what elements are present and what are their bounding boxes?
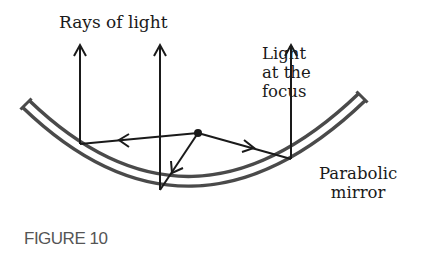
focus-point <box>194 129 202 137</box>
parabolic-mirror-figure: Rays of light Light at the focus Parabol… <box>0 0 432 257</box>
focus-label-line-3: focus <box>262 82 311 101</box>
light-at-focus-label: Light at the focus <box>262 44 311 101</box>
focus-label-line-2: at the <box>262 63 311 82</box>
figure-caption: FIGURE 10 <box>24 229 107 249</box>
mirror-label-line-1: Parabolic <box>319 164 397 183</box>
ray-to-right <box>198 133 291 159</box>
ray-to-left <box>80 133 198 144</box>
diagram-canvas <box>0 0 432 257</box>
direction-arrowheads <box>119 134 254 173</box>
parabolic-mirror-label: Parabolic mirror <box>319 164 397 202</box>
parabolic-mirror <box>22 93 367 182</box>
rays-of-light-label: Rays of light <box>59 13 168 32</box>
mirror-label-line-2: mirror <box>319 183 397 202</box>
focus-label-line-1: Light <box>262 44 311 63</box>
